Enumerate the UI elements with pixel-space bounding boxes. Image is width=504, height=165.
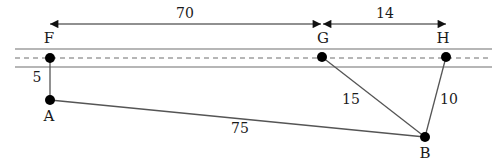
point-label-f: F [44, 29, 54, 47]
point-g-dot [317, 52, 327, 62]
point-f-dot [45, 53, 55, 63]
point-h-dot [441, 52, 451, 62]
point-label-a: A [43, 107, 55, 125]
point-label-g: G [317, 29, 329, 47]
dimension-label-f-g: 70 [176, 5, 194, 21]
segment-labels: 5 75 15 10 [33, 69, 458, 136]
segment-g-b [322, 57, 425, 137]
segment-label-f-a: 5 [33, 69, 42, 85]
dimension-label-g-h: 14 [376, 5, 394, 21]
segment-label-g-b: 15 [342, 91, 360, 107]
segment-label-a-b: 75 [231, 120, 249, 136]
point-label-b: B [419, 144, 430, 162]
road-triangle-diagram: 70 14 5 75 15 10 F G H A B [0, 0, 504, 165]
road [15, 49, 492, 67]
point-b-dot [420, 132, 430, 142]
segment-label-h-b: 10 [440, 91, 458, 107]
point-label-h: H [436, 29, 449, 47]
point-a-dot [45, 95, 55, 105]
dimension-lines: 70 14 [50, 5, 446, 24]
